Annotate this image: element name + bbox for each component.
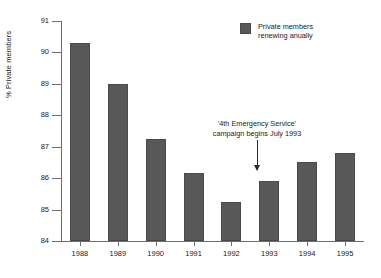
x-axis-tick: [231, 241, 232, 246]
annotation-line1: '4th Emergency Service': [201, 119, 313, 129]
y-axis-tick: 91: [52, 21, 61, 22]
x-axis-tick: [307, 241, 308, 246]
annotation-line2: campaign begins July 1993: [201, 129, 313, 139]
x-axis-tick-label: 1989: [109, 249, 126, 258]
y-axis-title: % Private members: [4, 0, 13, 98]
x-axis-tick: [80, 241, 81, 246]
y-axis-tick-label: 85: [41, 205, 49, 214]
x-axis-tick: [156, 241, 157, 246]
y-axis-tick: 87: [52, 147, 61, 148]
y-axis-tick: 88: [52, 115, 61, 116]
bar-chart: % Private members 8485868788899091 19881…: [0, 0, 381, 278]
y-axis-tick: 85: [52, 210, 61, 211]
y-axis-tick: 86: [52, 178, 61, 179]
x-axis-tick: [269, 241, 270, 246]
y-axis-tick-label: 88: [41, 110, 49, 119]
x-axis-tick-label: 1988: [72, 249, 89, 258]
y-axis-tick-label: 87: [41, 142, 49, 151]
y-axis-tick: 84: [52, 241, 61, 242]
bar: [184, 173, 204, 241]
bar: [297, 162, 317, 241]
x-axis-line: [61, 241, 364, 242]
legend-label: Private members renewing anually: [258, 22, 313, 40]
y-axis-tick-label: 86: [41, 173, 49, 182]
x-axis-tick-label: 1994: [299, 249, 316, 258]
y-axis-tick-label: 91: [41, 16, 49, 25]
bar: [146, 139, 166, 241]
y-axis-line: [61, 21, 62, 241]
bar: [70, 43, 90, 241]
annotation-arrow-icon: [257, 140, 258, 170]
legend-label-line1: Private members: [258, 22, 313, 31]
bar: [108, 84, 128, 241]
x-axis-tick-label: 1995: [337, 249, 354, 258]
bar: [259, 181, 279, 241]
bar: [335, 153, 355, 241]
legend: Private members renewing anually: [240, 22, 313, 40]
legend-swatch-icon: [240, 23, 251, 34]
x-axis-tick-label: 1992: [223, 249, 240, 258]
bar: [221, 202, 241, 241]
x-axis-tick-label: 1990: [147, 249, 164, 258]
x-axis-tick-label: 1991: [185, 249, 202, 258]
y-axis-tick-label: 89: [41, 79, 49, 88]
x-axis-tick: [194, 241, 195, 246]
x-axis-tick-label: 1993: [261, 249, 278, 258]
y-axis-tick: 89: [52, 84, 61, 85]
y-axis-tick-label: 84: [41, 236, 49, 245]
y-axis-tick-label: 90: [41, 47, 49, 56]
y-axis-tick: 90: [52, 52, 61, 53]
x-axis-tick: [345, 241, 346, 246]
x-axis-tick: [118, 241, 119, 246]
legend-label-line2: renewing anually: [258, 31, 313, 40]
annotation-text: '4th Emergency Service' campaign begins …: [201, 119, 313, 138]
